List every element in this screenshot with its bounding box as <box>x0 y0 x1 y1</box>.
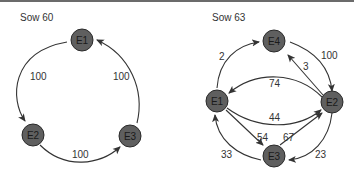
svg-text:E1: E1 <box>76 35 89 46</box>
node-e3: E3 <box>119 125 141 147</box>
edge-label: 100 <box>30 71 47 82</box>
edge-label: 100 <box>113 71 130 82</box>
svg-text:E2: E2 <box>27 130 40 141</box>
edge-label: 54 <box>257 132 269 143</box>
panel-sow-63: Sow 63 2 100 3 74 44 54 67 33 23 <box>177 0 354 182</box>
edge-label: 33 <box>221 149 233 160</box>
node-e2: E2 <box>321 91 343 113</box>
node-e3: E3 <box>263 145 285 167</box>
svg-text:E2: E2 <box>326 97 339 108</box>
edge-label: 67 <box>283 132 295 143</box>
node-e1: E1 <box>71 29 93 51</box>
node-e2: E2 <box>22 124 44 146</box>
svg-text:E4: E4 <box>268 36 281 47</box>
node-e1: E1 <box>206 90 228 112</box>
edge-label: 44 <box>269 112 281 123</box>
edge-label: 3 <box>303 61 309 72</box>
edge-label: 2 <box>219 51 225 62</box>
svg-text:E3: E3 <box>268 151 281 162</box>
edge-label: 23 <box>315 149 327 160</box>
graph-sow-60: 100 100 100 E1 E2 E3 <box>0 0 177 182</box>
graph-sow-63: 2 100 3 74 44 54 67 33 23 E4 E1 E2 E3 <box>177 0 354 182</box>
edge-label: 100 <box>72 149 89 160</box>
edge-label: 74 <box>269 78 281 89</box>
svg-text:E3: E3 <box>124 131 137 142</box>
edge-e1-e4 <box>217 42 259 88</box>
node-e4: E4 <box>263 30 285 52</box>
panel-sow-60: Sow 60 100 100 100 E1 E2 E3 <box>0 0 177 182</box>
svg-text:E1: E1 <box>211 96 224 107</box>
edge-label: 100 <box>321 50 338 61</box>
